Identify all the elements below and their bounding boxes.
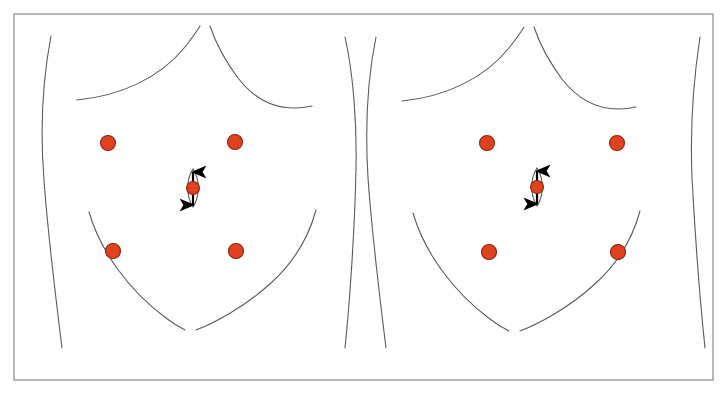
- port-marker-right-umbilical-port[interactable]: [531, 181, 544, 194]
- port-marker-right-upper-right-port[interactable]: [610, 136, 625, 151]
- port-marker-left-upper-right-port[interactable]: [228, 135, 243, 150]
- figure-border: [14, 14, 713, 380]
- port-marker-left-lower-right-port[interactable]: [229, 244, 244, 259]
- port-marker-left-lower-left-port[interactable]: [106, 244, 121, 259]
- figure-root: [0, 0, 722, 397]
- port-marker-right-lower-left-port[interactable]: [482, 245, 497, 260]
- port-marker-left-upper-left-port[interactable]: [101, 136, 116, 151]
- figure-caption: [16, 384, 316, 395]
- port-marker-right-upper-left-port[interactable]: [480, 136, 495, 151]
- port-marker-left-umbilical-port[interactable]: [187, 182, 200, 195]
- port-site-diagram: [0, 0, 722, 397]
- port-marker-right-lower-right-port[interactable]: [611, 245, 626, 260]
